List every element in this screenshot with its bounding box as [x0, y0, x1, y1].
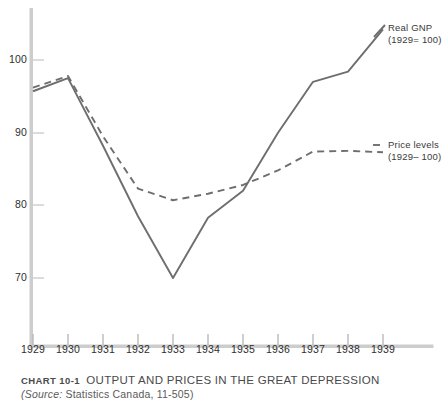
x-tick-label-1935: 1935 [223, 344, 263, 355]
x-tick-label-1930: 1930 [48, 344, 88, 355]
y-tick-label-100: 100 [3, 54, 27, 65]
y-tick-label-70: 70 [3, 272, 27, 283]
y-axis-line [30, 8, 34, 348]
legend-entry-real-gnp: Real GNP (1929= 100) [388, 22, 442, 45]
y-axis-labels: 100 90 80 70 [0, 0, 27, 360]
caption-title-line: CHART 10-1 OUTPUT AND PRICES IN THE GREA… [21, 374, 431, 386]
y-tick-label-90: 90 [3, 127, 27, 138]
legend-label-price-levels: Price levels [388, 139, 441, 151]
series-line-real-gnp [33, 29, 383, 278]
x-tick-label-1933: 1933 [153, 344, 193, 355]
y-tick-marks [33, 60, 44, 278]
x-tick-label-1936: 1936 [258, 344, 298, 355]
caption-source-value: Statistics Canada, 11-505) [65, 388, 193, 400]
chart-caption: CHART 10-1 OUTPUT AND PRICES IN THE GREA… [21, 374, 431, 400]
caption-source-label: (Source: [21, 388, 62, 400]
x-tick-label-1939: 1939 [363, 344, 403, 355]
x-tick-label-1932: 1932 [118, 344, 158, 355]
legend-entry-price-levels: Price levels (1929– 100) [388, 139, 441, 162]
caption-source-line: (Source: Statistics Canada, 11-505) [21, 388, 431, 400]
x-axis-labels: 1929 1930 1931 1932 1933 1934 1935 1936 … [0, 344, 434, 360]
series-line-price-levels [33, 76, 383, 200]
x-tick-label-1934: 1934 [188, 344, 228, 355]
caption-chart-number: CHART 10-1 [21, 375, 80, 386]
legend-basis-price-levels: (1929– 100) [388, 151, 441, 163]
x-tick-label-1931: 1931 [83, 344, 123, 355]
legend-label-real-gnp: Real GNP [388, 22, 442, 34]
caption-title-text: OUTPUT AND PRICES IN THE GREAT DEPRESSIO… [86, 374, 379, 386]
x-tick-label-1938: 1938 [328, 344, 368, 355]
legend-swatch-real-gnp [374, 25, 385, 37]
x-tick-label-1937: 1937 [293, 344, 333, 355]
y-tick-label-80: 80 [3, 199, 27, 210]
legend-basis-real-gnp: (1929= 100) [388, 34, 442, 46]
x-tick-label-1929: 1929 [13, 344, 53, 355]
